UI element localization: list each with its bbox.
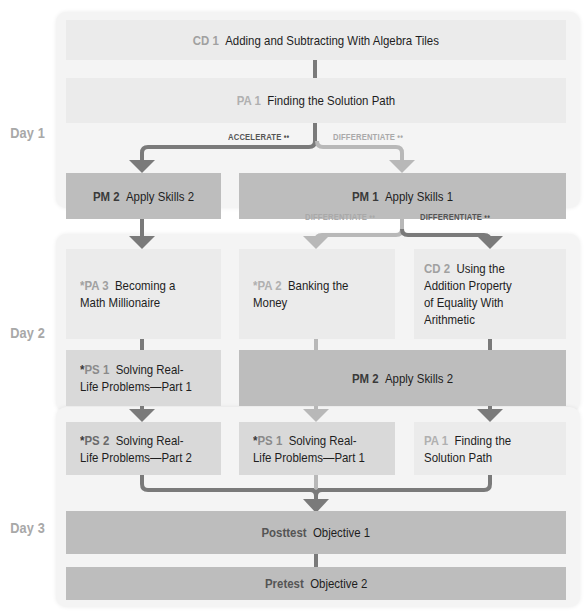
group-icon: •• xyxy=(397,132,403,142)
arrow-down-icon xyxy=(129,236,155,249)
arrow-down-icon xyxy=(477,236,503,249)
pa2-activity-box[interactable]: *PA 2 Banking the Money xyxy=(239,249,395,339)
activity-code: PS 1 xyxy=(257,433,282,448)
group-icon: •• xyxy=(284,132,290,142)
connector-cd1-pa1 xyxy=(313,60,317,78)
ps2-activity-box[interactable]: *PS 2 Solving Real- Life Problems—Part 2 xyxy=(66,422,221,475)
pretest-box[interactable]: Pretest Objective 2 xyxy=(66,567,566,600)
pa1-activity-box[interactable]: PA 1 Finding the Solution Path xyxy=(414,422,566,475)
activity-code: CD 1 xyxy=(193,33,219,48)
differentiate-label: DIFFERENTIATE •• xyxy=(420,212,490,222)
cd2-activity-box[interactable]: CD 2 Using the Addition Property of Equa… xyxy=(414,249,566,339)
activity-code: PM 2 xyxy=(352,371,379,386)
differentiate-path xyxy=(317,141,402,160)
activity-code: PA 1 xyxy=(237,93,261,108)
pm1-activity-box[interactable]: PM 1 Apply Skills 1 xyxy=(239,173,566,219)
activity-code: PS 2 xyxy=(84,433,109,448)
activity-title: Apply Skills 2 xyxy=(385,371,453,386)
pm2-activity-box[interactable]: PM 2 Apply Skills 2 xyxy=(239,350,566,406)
arrow-down-icon xyxy=(129,409,155,422)
cd1-activity-box[interactable]: CD 1 Adding and Subtracting With Algebra… xyxy=(66,20,566,60)
differentiate-label: DIFFERENTIATE •• xyxy=(333,132,403,142)
activity-code: PM 1 xyxy=(352,189,379,204)
pa3-activity-box[interactable]: *PA 3 Becoming a Math Millionaire xyxy=(66,249,221,339)
accelerate-label: ACCELERATE •• xyxy=(228,132,289,142)
group-icon: •• xyxy=(484,212,490,222)
arrow-down-icon xyxy=(129,160,155,173)
activity-code: Posttest xyxy=(262,525,307,540)
activity-title: Adding and Subtracting With Algebra Tile… xyxy=(225,33,439,48)
group-icon: •• xyxy=(369,212,375,222)
arrow-down-icon xyxy=(303,409,329,422)
ps1-activity-box[interactable]: *PS 1 Solving Real- Life Problems—Part 1 xyxy=(66,350,221,406)
differentiate-label: DIFFERENTIATE •• xyxy=(305,212,375,222)
activity-title: Objective 1 xyxy=(313,525,370,540)
pm2-activity-box[interactable]: PM 2 Apply Skills 2 xyxy=(66,173,221,219)
posttest-box[interactable]: Posttest Objective 1 xyxy=(66,511,566,554)
arrow-down-icon xyxy=(477,409,503,422)
activity-code: PA 2 xyxy=(257,278,281,293)
activity-code: Pretest xyxy=(265,576,304,591)
activity-code: PS 1 xyxy=(84,362,109,377)
arrow-down-icon xyxy=(389,160,415,173)
activity-title: Finding the Solution Path xyxy=(267,93,395,108)
activity-code: PA 3 xyxy=(84,278,108,293)
pa1-activity-box[interactable]: PA 1 Finding the Solution Path xyxy=(66,78,566,123)
activity-code: CD 2 xyxy=(424,261,450,276)
activity-code: PM 2 xyxy=(93,189,120,204)
activity-title: Objective 2 xyxy=(310,576,367,591)
arrow-down-icon xyxy=(303,236,329,249)
ps1-activity-box[interactable]: *PS 1 Solving Real- Life Problems—Part 1 xyxy=(239,422,395,475)
activity-title: Apply Skills 2 xyxy=(126,189,194,204)
activity-code: PA 1 xyxy=(424,433,448,448)
activity-title: Apply Skills 1 xyxy=(385,189,453,204)
